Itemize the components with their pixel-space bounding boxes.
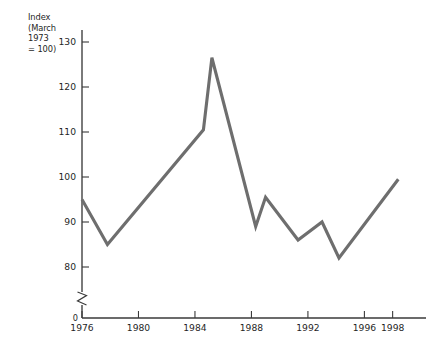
y-tick-label: 90 [64,216,76,227]
y-tick-label: 130 [58,36,76,47]
x-tick-label: 1976 [70,322,94,333]
y-tick-label: 110 [58,126,76,137]
chart-container: Index (March 1973 = 100) 809010011012013… [0,0,435,352]
x-tick-label: 1980 [127,322,151,333]
x-tick-label: 1998 [381,322,405,333]
y-axis-ticks: 8090100110120130 [58,36,89,272]
data-series-group [82,58,398,258]
x-tick-label: 1984 [183,322,207,333]
y-tick-label: 120 [58,81,76,92]
x-tick-label: 1996 [353,322,377,333]
x-axis-ticks: 1976198019841988199219961998 [70,311,404,333]
x-tick-label: 1988 [240,322,264,333]
data-line-series [82,58,398,258]
line-chart-svg: 8090100110120130 19761980198419881992199… [0,0,435,352]
y-axis-zero-label: 0 [73,313,78,323]
y-tick-label: 80 [64,261,76,272]
y-tick-label: 100 [58,171,76,182]
axis-break-icon [78,292,87,305]
x-tick-label: 1992 [296,322,319,333]
